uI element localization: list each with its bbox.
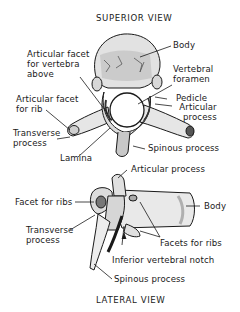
label-inferior-vertebral-notch: Inferior vertebral notch [112, 255, 214, 265]
label-line-1: Articular [173, 102, 217, 112]
label-line-3: above [27, 69, 89, 79]
label-facet-for-ribs: Facet for ribs [15, 197, 72, 207]
label-line-1: Vertebral [173, 64, 213, 74]
label-articular-process-lateral: Articular process [131, 164, 205, 174]
label-line-1: Articular facet [16, 94, 78, 104]
label-facets-for-ribs: Facets for ribs [160, 238, 222, 248]
label-spinous-process-superior: Spinous process [148, 143, 219, 153]
label-line-1: Transverse [26, 225, 73, 235]
lateral-view-title: LATERAL VIEW [96, 295, 165, 305]
label-vertebral-foramen: Vertebral foramen [173, 64, 213, 84]
label-articular-facet-vertebra-above: Articular facet for vertebra above [27, 49, 89, 79]
label-body-lateral: Body [204, 201, 226, 211]
label-articular-process-superior: Articular process [173, 102, 217, 122]
label-line-2: for rib [16, 104, 78, 114]
label-transverse-process-superior: Transverse process [13, 128, 60, 148]
label-body-superior: Body [173, 40, 195, 50]
vertebra-illustration [0, 0, 240, 312]
label-line-2: process [26, 235, 73, 245]
label-line-2: process [173, 112, 217, 122]
label-line-1: Articular facet [27, 49, 89, 59]
label-spinous-process-lateral: Spinous process [114, 274, 185, 284]
label-line-2: process [13, 138, 60, 148]
label-line-2: for vertebra [27, 59, 89, 69]
label-line-2: foramen [173, 74, 213, 84]
label-lamina: Lamina [60, 153, 92, 163]
superior-view-title: SUPERIOR VIEW [96, 13, 172, 23]
label-articular-facet-rib: Articular facet for rib [16, 94, 78, 114]
label-transverse-process-lateral: Transverse process [26, 225, 73, 245]
label-line-1: Transverse [13, 128, 60, 138]
